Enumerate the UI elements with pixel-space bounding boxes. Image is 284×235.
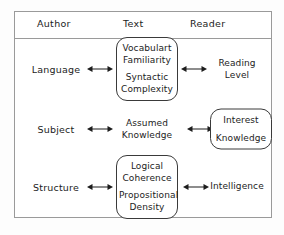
factor-line: Assumed <box>112 118 182 130</box>
table-row: Structure Logical Coherence Propositiona… <box>15 157 271 217</box>
factor-line: Syntactic <box>119 72 175 84</box>
table-row: Subject Assumed Knowledge <box>15 99 271 159</box>
factor-line: Complexity <box>119 84 175 96</box>
diagram-root: Author Text Reader Language Vocabulart F… <box>0 0 284 235</box>
table-row: Language Vocabulart Familiarity Syntacti… <box>15 39 271 99</box>
factor-line: Level <box>201 69 273 81</box>
factor-line: Knowledge <box>112 129 182 141</box>
factor-line: Vocabulart <box>119 43 175 55</box>
column-header-text: Text <box>123 18 143 29</box>
text-factor-subject: Assumed Knowledge <box>112 118 182 141</box>
factor-line: Familiarity <box>119 55 175 67</box>
double-arrow-icon <box>87 124 113 135</box>
row-label-structure: Structure <box>25 182 87 193</box>
diagram-frame: Author Text Reader Language Vocabulart F… <box>14 11 272 218</box>
text-factor-box-language: Vocabulart Familiarity Syntactic Complex… <box>116 37 178 101</box>
factor-line: Density <box>119 202 175 214</box>
reader-factor-language: Reading Level <box>201 58 273 81</box>
factor-line: Logical <box>119 161 175 173</box>
column-header-author: Author <box>37 18 71 29</box>
row-label-language: Language <box>25 64 87 75</box>
factor-line: Interest <box>213 115 269 127</box>
text-factor-box-structure: Logical Coherence Propositional Density <box>116 155 178 219</box>
factor-line: Intelligence <box>201 181 273 193</box>
factor-line: Propositional <box>119 190 175 202</box>
row-label-subject: Subject <box>25 124 87 135</box>
factor-line: Reading <box>201 58 273 70</box>
double-arrow-icon <box>87 182 113 193</box>
double-arrow-icon <box>87 64 113 75</box>
factor-line: Knowledge <box>213 132 269 144</box>
column-header-reader: Reader <box>190 18 225 29</box>
table-header-row: Author Text Reader <box>15 12 271 39</box>
factor-line: Coherence <box>119 173 175 185</box>
table-body: Language Vocabulart Familiarity Syntacti… <box>15 39 271 217</box>
reader-factor-box-subject: Interest Knowledge <box>210 109 272 150</box>
reader-factor-structure: Intelligence <box>201 181 273 193</box>
